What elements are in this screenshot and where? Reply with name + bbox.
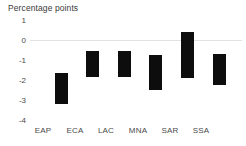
bar-eap bbox=[55, 73, 68, 104]
x-tick-label-lac: LAC bbox=[89, 126, 123, 135]
percentage-points-bar-chart: Percentage points 1 0 -1 -2 -3 -4 EAP EC… bbox=[0, 0, 246, 146]
x-tick-label-eap: EAP bbox=[26, 126, 60, 135]
y-tick-label: -1 bbox=[8, 56, 26, 65]
y-tick-label: 1 bbox=[8, 16, 26, 25]
bar-eca bbox=[86, 51, 99, 77]
x-tick-label-ssa: SSA bbox=[184, 126, 218, 135]
zero-baseline bbox=[30, 40, 242, 41]
y-tick-label: -3 bbox=[8, 96, 26, 105]
y-tick-label: -4 bbox=[8, 116, 26, 125]
plot-area bbox=[30, 20, 242, 120]
chart-title: Percentage points bbox=[8, 3, 78, 13]
x-tick-label-mna: MNA bbox=[121, 126, 155, 135]
x-tick-label-eca: ECA bbox=[58, 126, 92, 135]
bar-lac bbox=[118, 51, 131, 77]
bar-mna bbox=[149, 55, 162, 90]
x-tick-label-sar: SAR bbox=[153, 126, 187, 135]
bar-sar bbox=[181, 32, 194, 78]
bar-ssa bbox=[213, 54, 226, 85]
y-tick-label: 0 bbox=[8, 36, 26, 45]
y-tick-label: -2 bbox=[8, 76, 26, 85]
